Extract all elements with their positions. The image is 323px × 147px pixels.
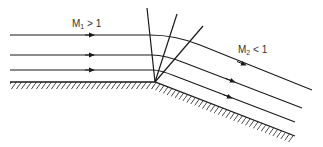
expansion-fan	[147, 8, 203, 82]
wall-hatching-flat	[10, 82, 155, 89]
arrow-icon	[226, 79, 233, 82]
mach-relation: > 1	[87, 18, 101, 29]
mach-line-trailing	[155, 26, 203, 82]
arrow-icon	[223, 95, 230, 98]
wall-hatching-slope	[152, 82, 295, 143]
wall	[10, 82, 295, 143]
expansion-fan-diagram	[0, 0, 323, 147]
streamline-3	[10, 70, 295, 122]
mach-line-leading	[147, 8, 155, 82]
downstream-mach-label: M2 < 1	[238, 45, 267, 56]
mach-relation: < 1	[253, 44, 267, 55]
mach-subscript: 2	[246, 49, 250, 56]
mach-subscript: 1	[80, 23, 84, 30]
upstream-mach-label: M1 > 1	[72, 19, 101, 30]
mach-line-middle	[155, 14, 177, 82]
